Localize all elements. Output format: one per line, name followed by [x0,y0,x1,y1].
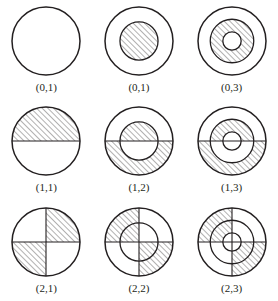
figure-2-2-svg [101,204,177,280]
figure-grid: (0,1)(0,1)(0,3)(1,1)(1,2)(1,3)(2,1)(2,2)… [0,0,278,301]
figure-2-3: (2,3) [185,201,278,301]
figure-0-1-b: (0,1) [93,0,186,100]
figure-0-1: (0,1) [0,0,93,100]
figure-0-3-label: (0,3) [221,82,242,93]
hatched-region [12,107,80,141]
figure-2-1-svg [8,204,84,280]
figure-2-3-label: (2,3) [221,283,242,294]
figure-1-3-svg [194,103,270,179]
figure-2-2-label: (2,2) [128,283,149,294]
figure-1-2-svg [101,103,177,179]
figure-2-1: (2,1) [0,201,93,301]
figure-0-1-label: (0,1) [36,82,57,93]
figure-1-1: (1,1) [0,100,93,200]
figure-1-1-svg [8,103,84,179]
figure-2-2: (2,2) [93,201,186,301]
figure-1-3-label: (1,3) [221,182,242,193]
figure-1-1-label: (1,1) [36,182,57,193]
figure-1-2-label: (1,2) [128,182,149,193]
figure-0-1-b-label: (0,1) [128,82,149,93]
figure-1-3: (1,3) [185,100,278,200]
figure-0-1-b-svg [101,3,177,79]
figure-2-3-svg [194,204,270,280]
figure-0-3: (0,3) [185,0,278,100]
figure-0-3-svg [194,3,270,79]
figure-0-1-svg [8,3,84,79]
figure-1-2: (1,2) [93,100,186,200]
figure-2-1-label: (2,1) [36,283,57,294]
